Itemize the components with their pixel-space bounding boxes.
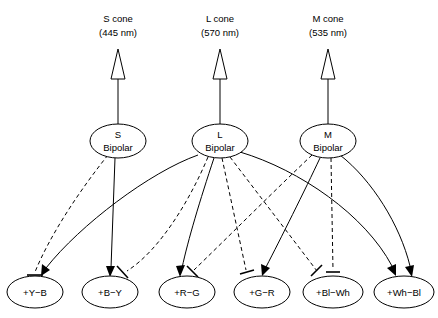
- conn-l-to-blwh: [230, 157, 322, 276]
- m-bipolar-label-line1: M: [324, 129, 332, 140]
- node-cell-bl-wh[interactable]: +Bl−Wh: [303, 276, 363, 308]
- cone-axon-l: [213, 49, 227, 125]
- cell-b-y-label: +B−Y: [98, 287, 122, 298]
- conn-s-to-by: [106, 158, 115, 277]
- cone-axon-m: [321, 49, 335, 125]
- s-bipolar-label-line2: Bipolar: [103, 142, 133, 153]
- m-bipolar-label-line2: Bipolar: [313, 142, 343, 153]
- l-cone-wavelength: (570 nm): [201, 27, 239, 38]
- conn-s-to-yb: [27, 155, 108, 275]
- l-cone-name: L cone: [206, 13, 234, 24]
- node-cell-b-y[interactable]: +B−Y: [82, 276, 138, 308]
- cell-g-r-label: +G−R: [249, 287, 274, 298]
- s-cone-wavelength: (445 nm): [99, 27, 137, 38]
- m-cone-name: M cone: [312, 13, 343, 24]
- wiring-diagram: S Bipolar L Bipolar M Bipolar +Y−B +B−Y …: [0, 0, 438, 318]
- node-cell-g-r[interactable]: +G−R: [234, 276, 290, 308]
- s-bipolar-label-line1: S: [115, 129, 121, 140]
- l-bipolar-label-line1: L: [217, 129, 222, 140]
- node-cell-wh-bl[interactable]: +Wh−Bl: [374, 276, 434, 308]
- diagram-canvas: S Bipolar L Bipolar M Bipolar +Y−B +B−Y …: [0, 0, 438, 318]
- cell-r-g-label: +R−G: [174, 287, 199, 298]
- cell-bl-wh-label: +Bl−Wh: [316, 287, 350, 298]
- m-cone-wavelength: (535 nm): [309, 27, 347, 38]
- node-l-bipolar[interactable]: L Bipolar: [192, 124, 248, 158]
- conn-l-to-whbl: [240, 152, 396, 276]
- node-s-bipolar[interactable]: S Bipolar: [90, 124, 146, 158]
- cone-label-s: S cone (445 nm): [99, 13, 137, 38]
- conn-m-to-rg: [187, 155, 312, 277]
- conn-l-to-rg: [176, 158, 214, 277]
- conn-l-to-by: [117, 157, 208, 278]
- cone-label-m: M cone (535 nm): [309, 13, 347, 38]
- cell-y-b-label: +Y−B: [23, 287, 47, 298]
- conn-m-to-blwh: [326, 158, 340, 272]
- conn-l-to-yb: [41, 155, 198, 276]
- conn-m-to-whbl: [340, 155, 414, 277]
- s-cone-name: S cone: [103, 13, 133, 24]
- cone-axon-s: [111, 49, 125, 125]
- node-cell-r-g[interactable]: +R−G: [159, 276, 215, 308]
- cell-wh-bl-label: +Wh−Bl: [387, 287, 421, 298]
- l-bipolar-label-line2: Bipolar: [205, 142, 235, 153]
- node-cell-y-b[interactable]: +Y−B: [7, 276, 63, 308]
- node-m-bipolar[interactable]: M Bipolar: [300, 124, 356, 158]
- cone-label-l: L cone (570 nm): [201, 13, 239, 38]
